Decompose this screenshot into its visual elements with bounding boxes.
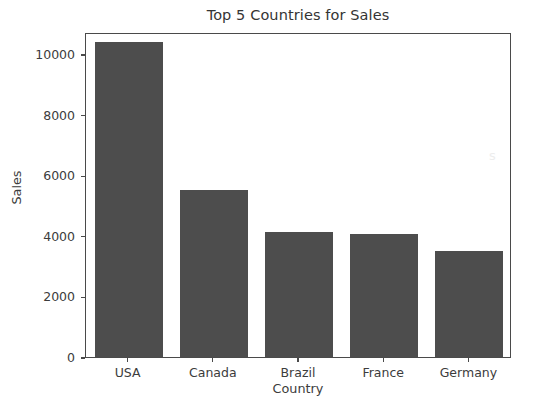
x-tick-mark <box>297 358 298 362</box>
y-tick-label: 6000 <box>3 168 75 183</box>
y-axis-label: Sales <box>9 148 24 228</box>
bar <box>435 251 503 357</box>
bar <box>95 42 163 357</box>
bar <box>265 232 333 357</box>
y-tick-label: 0 <box>3 350 75 365</box>
x-axis-label: Country <box>85 381 511 396</box>
y-axis: Sales 0200040006000800010000 <box>0 0 85 420</box>
chart-title: Top 5 Countries for Sales <box>85 7 511 23</box>
bar <box>350 234 418 357</box>
bars-layer <box>86 34 510 357</box>
x-tick-mark <box>468 358 469 362</box>
y-tick-label: 10000 <box>3 47 75 62</box>
y-tick-label: 2000 <box>3 289 75 304</box>
x-tick-label: Germany <box>413 365 523 380</box>
x-tick-mark <box>212 358 213 362</box>
plot-area <box>85 33 511 358</box>
bar <box>180 190 248 357</box>
x-tick-mark <box>383 358 384 362</box>
figure-canvas: Top 5 Countries for Sales Sales 02000400… <box>0 0 535 420</box>
x-tick-mark <box>127 358 128 362</box>
watermark-artifact: s <box>489 148 496 163</box>
y-tick-label: 4000 <box>3 229 75 244</box>
y-tick-label: 8000 <box>3 108 75 123</box>
